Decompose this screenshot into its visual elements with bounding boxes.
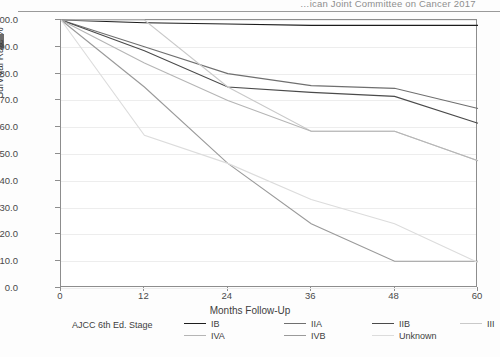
legend-entry-iia: IIA xyxy=(284,319,322,329)
y-tick-label: 90.0 xyxy=(0,40,18,51)
legend-swatch-icon xyxy=(284,323,306,324)
x-tick-label: 12 xyxy=(138,290,149,301)
y-tick-label: 100.0 xyxy=(0,14,18,25)
header-rule xyxy=(18,11,500,12)
y-tick-label: 70.0 xyxy=(0,94,18,105)
x-tick-label: 36 xyxy=(305,290,316,301)
legend-title: AJCC 6th Ed. Stage xyxy=(72,320,153,330)
legend-label: IIA xyxy=(311,319,322,329)
legend-swatch-icon xyxy=(460,323,482,324)
legend-entry-unknown: Unknown xyxy=(372,331,437,341)
legend-swatch-icon xyxy=(372,323,394,324)
legend-swatch-icon xyxy=(184,323,206,324)
plot-area xyxy=(60,19,477,287)
legend-entry-iii: III xyxy=(460,319,495,329)
curve-iib xyxy=(61,20,478,123)
y-tick-label: 40.0 xyxy=(0,174,18,185)
legend-swatch-icon xyxy=(372,335,394,336)
chart-page: …ican Joint Committee on Cancer 2017 Sur… xyxy=(0,0,500,357)
curve-iia xyxy=(61,20,478,108)
y-tick-label: 30.0 xyxy=(0,201,18,212)
legend-label: IB xyxy=(211,319,220,329)
curve-iva xyxy=(61,20,478,161)
survival-curves xyxy=(61,20,478,288)
x-tick-label: 48 xyxy=(388,290,399,301)
y-tick-label: 20.0 xyxy=(0,228,18,239)
legend-entry-ivb: IVB xyxy=(284,331,326,341)
gridline xyxy=(61,288,476,289)
legend-entry-iva: IVA xyxy=(184,331,225,341)
y-tick-label: 60.0 xyxy=(0,121,18,132)
y-tick-label: 50.0 xyxy=(0,148,18,159)
legend-swatch-icon xyxy=(284,335,306,336)
x-tick-label: 60 xyxy=(472,290,483,301)
legend-label: IVB xyxy=(311,331,326,341)
legend-label: IVA xyxy=(211,331,225,341)
legend-label: Unknown xyxy=(399,331,437,341)
x-axis-label: Months Follow-Up xyxy=(0,305,500,316)
curve-ivb xyxy=(61,20,478,261)
page-running-header: …ican Joint Committee on Cancer 2017 xyxy=(300,0,500,10)
y-tick-label: 10.0 xyxy=(0,255,18,266)
legend-label: III xyxy=(487,319,495,329)
legend-entry-iib: IIB xyxy=(372,319,410,329)
y-tick-label: 0.0 xyxy=(5,282,18,293)
y-tick-label: 80.0 xyxy=(0,67,18,78)
x-tick-label: 0 xyxy=(57,290,62,301)
curve-ib xyxy=(61,20,478,25)
x-tick-label: 24 xyxy=(222,290,233,301)
legend-swatch-icon xyxy=(184,335,206,336)
legend-entry-ib: IB xyxy=(184,319,220,329)
legend-label: IIB xyxy=(399,319,410,329)
curve-unknown xyxy=(61,20,478,263)
curve-iii xyxy=(61,20,478,161)
